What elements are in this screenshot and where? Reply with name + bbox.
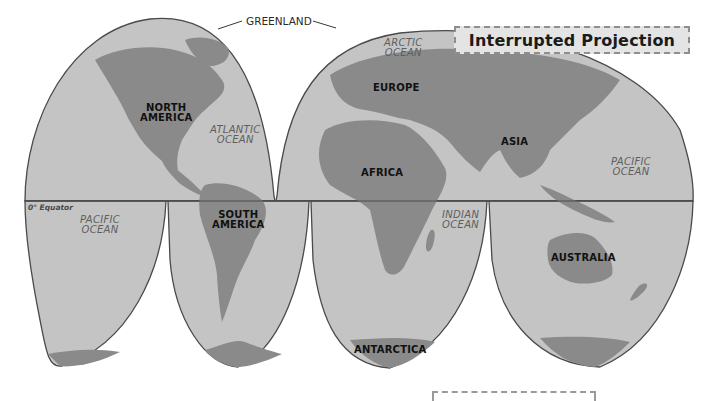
map-title-box: Interrupted Projection — [454, 26, 690, 54]
bottom-caption-box — [432, 391, 596, 401]
greenland-label: GREENLAND — [246, 16, 312, 27]
greenland-leader-right — [313, 21, 336, 28]
arctic-ocean-label: ARCTIC OCEAN — [384, 38, 423, 58]
south-america-label: SOUTH AMERICA — [212, 210, 264, 230]
asia-label: ASIA — [501, 137, 528, 147]
equator-label: 0° Equator — [28, 204, 73, 212]
greenland-leader-left — [218, 21, 242, 29]
africa-label: AFRICA — [361, 168, 403, 178]
antarctica-land-1 — [48, 350, 120, 367]
pacific-ocean-west-label: PACIFIC OCEAN — [80, 215, 120, 235]
map-title: Interrupted Projection — [469, 31, 675, 50]
australia-label: AUSTRALIA — [551, 253, 616, 263]
indian-ocean-label: INDIAN OCEAN — [442, 210, 479, 230]
north-america-label: NORTH AMERICA — [140, 103, 192, 123]
atlantic-ocean-label: ATLANTIC OCEAN — [210, 125, 261, 145]
pacific-ocean-east-label: PACIFIC OCEAN — [611, 157, 651, 177]
europe-label: EUROPE — [373, 83, 420, 93]
antarctica-label: ANTARCTICA — [354, 345, 427, 355]
